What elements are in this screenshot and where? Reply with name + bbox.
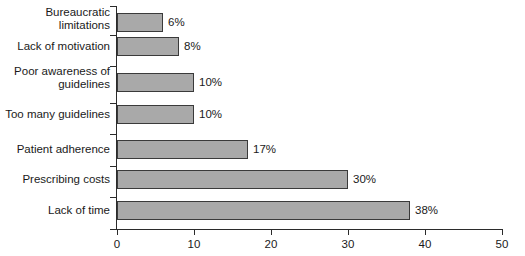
x-axis-tick xyxy=(425,229,426,235)
bar-value-prescribing-costs: 30% xyxy=(353,170,376,189)
category-label-lack-of-time: Lack of time xyxy=(0,204,110,217)
category-label-poor-awareness-of-guidelines: Poor awareness ofguidelines xyxy=(0,65,110,90)
chart-row: Bureaucraticlimitations 6% xyxy=(0,6,525,37)
bar-too-many-guidelines xyxy=(117,105,194,124)
x-axis-tick xyxy=(348,229,349,235)
bar-patient-adherence xyxy=(117,140,248,159)
x-axis-tick-label: 10 xyxy=(174,238,214,251)
bar-value-patient-adherence: 17% xyxy=(253,140,276,159)
chart-row: Prescribing costs 30% xyxy=(0,170,525,201)
chart-row: Too many guidelines 10% xyxy=(0,105,525,136)
x-axis-tick xyxy=(271,229,272,235)
y-axis-line xyxy=(116,6,117,230)
bar-value-too-many-guidelines: 10% xyxy=(199,105,222,124)
bar-lack-of-time xyxy=(117,201,410,220)
x-axis-tick-label: 40 xyxy=(405,238,445,251)
bar-lack-of-motivation xyxy=(117,37,179,56)
bar-bureaucratic-limitations xyxy=(117,13,163,32)
x-axis-tick xyxy=(194,229,195,235)
x-axis-tick xyxy=(502,229,503,235)
bar-value-lack-of-motivation: 8% xyxy=(184,37,201,56)
bar-prescribing-costs xyxy=(117,170,348,189)
bar-poor-awareness-of-guidelines xyxy=(117,73,194,92)
x-axis-line xyxy=(116,229,503,230)
chart-row: Lack of motivation 8% xyxy=(0,37,525,68)
bar-value-poor-awareness-of-guidelines: 10% xyxy=(199,73,222,92)
x-axis-tick-label: 30 xyxy=(328,238,368,251)
chart-row: Poor awareness ofguidelines 10% xyxy=(0,68,525,99)
bar-chart: Bureaucraticlimitations 6% Lack of motiv… xyxy=(0,0,525,256)
x-axis-tick-label: 50 xyxy=(482,238,522,251)
x-axis-tick-label: 20 xyxy=(251,238,291,251)
category-label-lack-of-motivation: Lack of motivation xyxy=(0,40,110,53)
category-label-too-many-guidelines: Too many guidelines xyxy=(0,108,110,121)
x-axis-tick xyxy=(117,229,118,235)
category-label-bureaucratic-limitations: Bureaucraticlimitations xyxy=(0,6,110,31)
bar-value-bureaucratic-limitations: 6% xyxy=(168,13,185,32)
x-axis-tick-label: 0 xyxy=(97,238,137,251)
chart-row: Patient adherence 17% xyxy=(0,140,525,171)
bar-value-lack-of-time: 38% xyxy=(415,201,438,220)
category-label-prescribing-costs: Prescribing costs xyxy=(0,173,110,186)
chart-row: Lack of time 38% xyxy=(0,201,525,232)
category-label-patient-adherence: Patient adherence xyxy=(0,143,110,156)
